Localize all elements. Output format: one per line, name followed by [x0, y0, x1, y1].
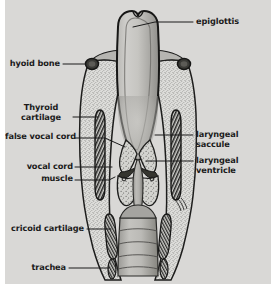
tracheal-cartilage-left: [108, 259, 116, 279]
label-thyroid-cartilage: Thyroid cartilage: [13, 102, 69, 122]
label-vocal-cord: vocal cord: [13, 161, 73, 171]
thyroid-cartilage-rod-right: [171, 110, 181, 200]
illustration-plate: epiglottis hyoid bone Thyroid cartilage …: [5, 0, 271, 284]
tracheal-cartilage-right: [160, 259, 168, 279]
hyoid-bone-right-core: [181, 61, 188, 67]
label-trachea: trachea: [5, 262, 66, 272]
figure-root: epiglottis hyoid bone Thyroid cartilage …: [0, 0, 275, 300]
label-muscle: muscle: [13, 173, 73, 183]
thyroid-cartilage-rod-left: [95, 110, 105, 200]
label-cricoid-cartilage: cricoid cartilage: [5, 223, 84, 233]
label-false-vocal-cord: false vocal cord: [5, 131, 73, 141]
label-hyoid-bone: hyoid bone: [10, 58, 60, 68]
hyoid-bone-left-core: [89, 61, 96, 67]
label-epiglottis: epiglottis: [196, 16, 239, 26]
label-laryngeal-ventricle: laryngeal ventricle: [196, 155, 238, 175]
label-laryngeal-saccule: laryngeal saccule: [196, 129, 238, 149]
